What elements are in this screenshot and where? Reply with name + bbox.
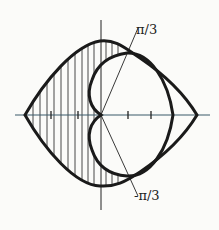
polar-diagram xyxy=(0,0,219,230)
label-pi-over-3: π/3 xyxy=(136,22,157,37)
label-neg-pi-over-3: -π/3 xyxy=(134,188,160,203)
